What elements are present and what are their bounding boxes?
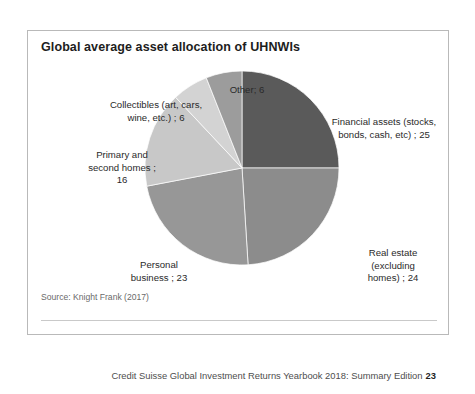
pie-label-collectibles: Collectibles (art, cars, wine, etc.) ; 6 [90, 99, 222, 124]
pie-slice [242, 168, 339, 265]
pie-label-personal-business: Personal business ; 23 [98, 259, 220, 284]
pie-label-real-estate: Real estate (excluding homes) ; 24 [341, 247, 445, 285]
source-note: Source: Knight Frank (2017) [41, 292, 149, 302]
page-canvas: Global average asset allocation of UHNWI… [0, 0, 475, 394]
footer-divider [41, 320, 437, 321]
pie-chart: Other; 6 Financial assets (stocks, bonds… [28, 57, 448, 282]
pie-label-financial-assets: Financial assets (stocks, bonds, cash, e… [310, 116, 458, 141]
page-title: Global average asset allocation of UHNWI… [41, 40, 300, 54]
chart-panel: Global average asset allocation of UHNWI… [27, 30, 449, 335]
footer-citation-text: Credit Suisse Global Investment Returns … [111, 370, 422, 381]
footer-page-number: 23 [426, 370, 436, 381]
pie-label-primary-second-homes: Primary and second homes ; 16 [66, 149, 178, 187]
footer-citation: Credit Suisse Global Investment Returns … [28, 370, 475, 381]
pie-label-other: Other; 6 [204, 84, 290, 97]
